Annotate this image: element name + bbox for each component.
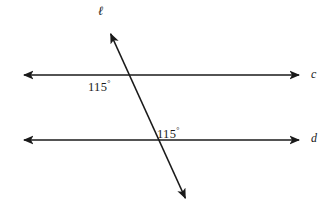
line-label-d: d <box>311 131 317 146</box>
line-label-c: c <box>311 67 316 82</box>
transversal-line-l <box>111 34 186 198</box>
angle-label-upper: 115° <box>88 79 110 95</box>
degree-symbol-upper: ° <box>107 79 110 88</box>
angle-value-upper: 115 <box>88 80 107 94</box>
geometry-diagram: 115° 115° c d ℓ <box>0 0 334 214</box>
degree-symbol-lower: ° <box>176 126 179 135</box>
geometry-canvas <box>0 0 334 214</box>
angle-label-lower: 115° <box>157 126 179 142</box>
line-label-l: ℓ <box>98 4 103 19</box>
angle-value-lower: 115 <box>157 127 176 141</box>
